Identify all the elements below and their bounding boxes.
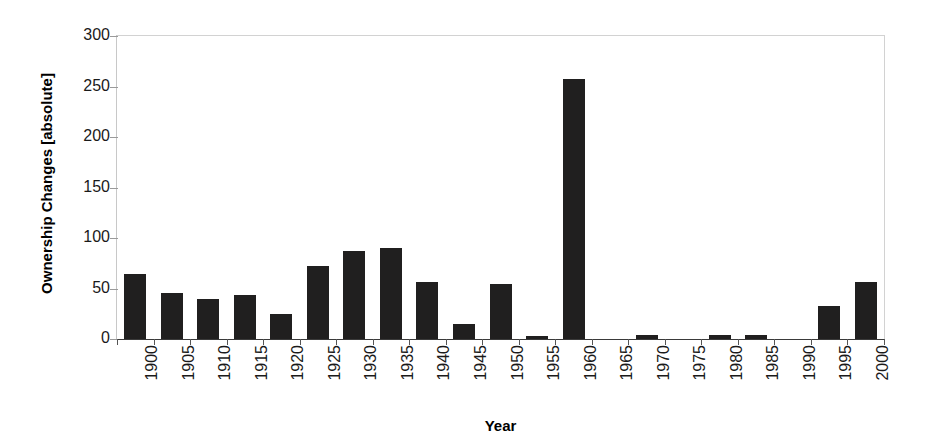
bar — [745, 335, 767, 339]
x-axis-title: Year — [117, 417, 884, 434]
bar — [270, 314, 292, 339]
x-axis-tick-label: 1970 — [656, 345, 672, 407]
x-axis-tick-label: 1935 — [400, 345, 416, 407]
bar — [563, 79, 585, 339]
bar — [234, 295, 256, 339]
x-axis-tick-label: 1910 — [217, 345, 233, 407]
x-axis-line — [116, 339, 885, 340]
x-axis-tick-label: 1915 — [254, 345, 270, 407]
y-axis-tick-label: 250 — [44, 78, 110, 94]
y-axis-tick-mark — [110, 36, 118, 37]
y-axis-tick-label: 200 — [44, 128, 110, 144]
x-axis-tick-label: 1905 — [181, 345, 197, 407]
x-axis-tick-label: 1900 — [144, 345, 160, 407]
bar — [161, 293, 183, 339]
bar-chart-figure: Ownership Changes [absolute] 05010015020… — [0, 0, 930, 448]
bar — [709, 335, 731, 339]
y-axis-tick-mark — [110, 188, 118, 189]
y-axis-tick-mark — [110, 238, 118, 239]
y-axis-tick-labels: 050100150200250300 — [44, 28, 110, 348]
x-axis-tick-label: 2000 — [875, 345, 891, 407]
bar — [307, 266, 329, 339]
plot-area — [117, 35, 885, 339]
bar — [380, 248, 402, 339]
x-axis-tick-label: 1975 — [692, 345, 708, 407]
y-axis-tick-label: 300 — [44, 27, 110, 43]
bar — [197, 299, 219, 339]
x-axis-tick-label: 1930 — [363, 345, 379, 407]
x-axis-tick-label: 1945 — [473, 345, 489, 407]
x-axis-tick-labels: 1900190519101915192019251930193519401945… — [117, 345, 884, 407]
x-axis-tick-label: 1920 — [290, 345, 306, 407]
bar — [490, 284, 512, 339]
x-axis-tick-label: 1940 — [436, 345, 452, 407]
x-axis-tick-label: 1925 — [327, 345, 343, 407]
x-axis-tick-label: 1980 — [729, 345, 745, 407]
x-axis-tick-label: 1990 — [802, 345, 818, 407]
x-axis-tick-label: 1965 — [619, 345, 635, 407]
bar — [818, 306, 840, 339]
y-axis-tick-label: 100 — [44, 229, 110, 245]
x-axis-tick-label: 1995 — [838, 345, 854, 407]
bar — [416, 282, 438, 339]
bar — [855, 282, 877, 339]
y-axis-tick-mark — [110, 87, 118, 88]
bar — [124, 274, 146, 339]
bar — [453, 324, 475, 339]
y-axis-tick-mark — [110, 289, 118, 290]
x-axis-tick-label: 1955 — [546, 345, 562, 407]
y-axis-tick-label: 150 — [44, 179, 110, 195]
y-axis-tick-mark — [110, 137, 118, 138]
y-axis-tick-label: 50 — [44, 280, 110, 296]
bar — [636, 335, 658, 339]
x-axis-tick-label: 1960 — [583, 345, 599, 407]
bar — [343, 251, 365, 339]
bar — [526, 336, 548, 339]
x-axis-tick-label: 1950 — [510, 345, 526, 407]
y-axis-tick-label: 0 — [44, 330, 110, 346]
x-axis-tick-label: 1985 — [765, 345, 781, 407]
